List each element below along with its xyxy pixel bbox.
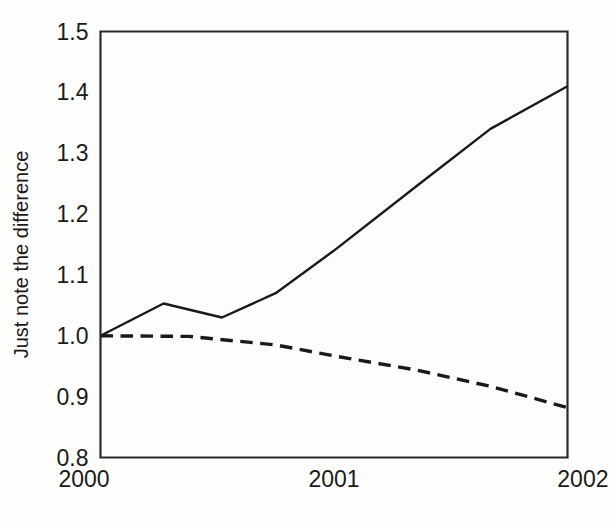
- series-line-solid-series: [101, 86, 568, 336]
- y-tick-label: 1.2: [57, 201, 89, 227]
- chart-canvas: 0.80.91.01.11.21.31.41.5 200020012002 Ju…: [0, 0, 609, 526]
- chart-figure: 0.80.91.01.11.21.31.41.5 200020012002 Ju…: [0, 0, 609, 526]
- plot-frame: [101, 32, 568, 458]
- series-line-dashed-series: [101, 336, 568, 408]
- y-tick-label: 0.9: [57, 384, 89, 410]
- x-tick-label: 2000: [59, 466, 110, 492]
- x-tick-label: 2001: [308, 466, 359, 492]
- y-axis-title-text: Just note the difference: [10, 151, 32, 359]
- y-tick-label: 1.5: [57, 19, 89, 45]
- plot-border: [101, 32, 568, 458]
- data-series-group: [101, 86, 568, 407]
- x-tick-label: 2002: [557, 466, 608, 492]
- y-tick-label: 1.1: [57, 262, 89, 288]
- y-axis-title: Just note the difference: [10, 151, 32, 359]
- y-tick-label: 1.0: [57, 323, 89, 349]
- y-tick-label: 1.4: [57, 79, 89, 105]
- y-axis-tick-labels: 0.80.91.01.11.21.31.41.5: [57, 19, 89, 471]
- x-axis-tick-labels: 200020012002: [59, 466, 609, 492]
- y-tick-label: 1.3: [57, 140, 89, 166]
